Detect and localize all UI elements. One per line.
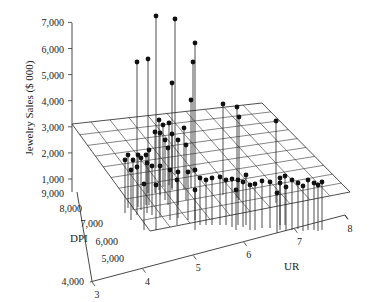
svg-text:2,000: 2,000: [42, 148, 65, 159]
svg-text:5: 5: [196, 262, 201, 273]
z-axis-label: Jewelry Sales ($ 000): [23, 60, 36, 155]
ur-axis-label: UR: [284, 260, 300, 272]
ur-axis: [90, 215, 348, 282]
svg-text:4: 4: [145, 276, 150, 287]
svg-text:7,000: 7,000: [81, 218, 104, 229]
svg-text:6: 6: [246, 249, 251, 260]
svg-text:1,000: 1,000: [42, 174, 65, 185]
svg-text:6,000: 6,000: [42, 44, 65, 55]
svg-text:5,000: 5,000: [102, 253, 125, 264]
svg-text:3: 3: [95, 289, 100, 300]
svg-text:6,000: 6,000: [96, 236, 119, 247]
svg-text:5,000: 5,000: [42, 70, 65, 81]
svg-text:8: 8: [348, 223, 353, 234]
svg-text:7,000: 7,000: [42, 17, 65, 28]
svg-text:4,000: 4,000: [62, 276, 85, 287]
ur-axis-ticks: 345678: [92, 216, 353, 301]
chart-3d-scatter: 1,0002,0003,0004,0005,0006,0007,000 Jewe…: [0, 0, 376, 302]
svg-text:8,000: 8,000: [60, 203, 83, 214]
dpi-axis-label: DPI: [70, 232, 88, 244]
svg-text:4,000: 4,000: [42, 96, 65, 107]
svg-text:9,000: 9,000: [42, 188, 65, 199]
svg-text:7: 7: [297, 236, 302, 247]
z-axis-ticks: 1,0002,0003,0004,0005,0006,0007,000: [42, 17, 73, 185]
svg-text:3,000: 3,000: [42, 122, 65, 133]
